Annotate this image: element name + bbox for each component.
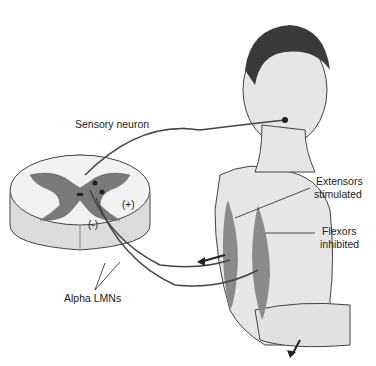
flexors-label-line1: Flexors: [322, 225, 356, 238]
sensory-neuron-label: Sensory neuron: [75, 118, 149, 131]
alpha-lmns-label: Alpha LMNs: [64, 292, 121, 305]
flexors-label-line2: inhibited: [320, 238, 359, 251]
plus-sign-label: (+): [122, 198, 135, 211]
extensors-label-line2: stimulated: [314, 188, 362, 201]
minus-sign-label: (-): [88, 218, 98, 231]
extensors-label-line1: Extensors: [316, 175, 363, 188]
